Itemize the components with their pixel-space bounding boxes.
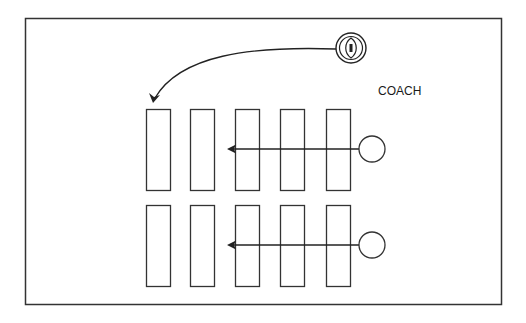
bag (236, 206, 260, 287)
player-circle-icon (359, 232, 385, 258)
bag (191, 110, 215, 191)
drill-diagram: COACH (0, 0, 526, 323)
pass-arrow (155, 48, 336, 98)
diagram-frame (26, 19, 502, 305)
bag (281, 206, 305, 287)
bag (327, 110, 351, 191)
player-circle-icon (359, 136, 385, 162)
bag (147, 206, 171, 287)
row-1 (147, 110, 386, 191)
coach-label: COACH (378, 84, 421, 98)
bag (191, 206, 215, 287)
pass-arrowhead-icon (149, 93, 160, 103)
football-icon (336, 33, 366, 63)
bag (147, 110, 171, 191)
bag (236, 110, 260, 191)
bag (281, 110, 305, 191)
bag (327, 206, 351, 287)
row-2 (147, 206, 386, 287)
